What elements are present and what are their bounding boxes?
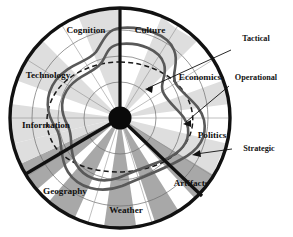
sector-label-geography: Geography bbox=[43, 186, 87, 196]
sector-label-technology: Technology bbox=[26, 70, 71, 80]
sector-label-culture: Culture bbox=[135, 25, 165, 35]
sector-label-weather: Weather bbox=[109, 205, 143, 215]
sector-label-economics: Economics bbox=[179, 72, 222, 82]
center-hub bbox=[109, 107, 132, 130]
sector-label-politics: Politics bbox=[198, 130, 227, 140]
sector-label-cognition: Cognition bbox=[67, 25, 106, 35]
annotation-label-operational: Operational bbox=[235, 73, 278, 82]
annotation-label-strategic: Strategic bbox=[243, 144, 275, 153]
annotation-label-tactical: Tactical bbox=[242, 34, 270, 43]
radar-figure: Cognition Culture Economics Politics Art… bbox=[0, 0, 293, 237]
sector-label-information: Information bbox=[22, 120, 70, 130]
radar-diagram-svg: Cognition Culture Economics Politics Art… bbox=[0, 0, 293, 237]
sector-label-artifacts: Artifacts bbox=[174, 178, 209, 188]
annotation-label-group: Tactical Operational Strategic bbox=[235, 34, 278, 153]
